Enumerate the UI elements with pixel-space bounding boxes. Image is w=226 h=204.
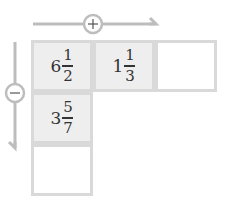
numerator: 5: [63, 100, 73, 115]
plus-arrow: [33, 15, 156, 33]
denominator: 7: [63, 121, 73, 136]
cell-r1-c0: 3 5 7: [31, 92, 93, 144]
fraction: 5 7: [62, 100, 73, 135]
denominator: 3: [125, 69, 135, 84]
cell-r0-c1: 1 1 3: [93, 40, 155, 92]
whole-part: 1: [113, 56, 124, 76]
cell-r0-c2-answer[interactable]: [155, 40, 217, 92]
whole-part: 6: [51, 56, 62, 76]
denominator: 2: [63, 69, 73, 84]
whole-part: 3: [51, 108, 62, 128]
mixed-number: 6 1 2: [51, 48, 74, 83]
fraction: 1 2: [62, 48, 73, 83]
minus-arrow: [6, 42, 24, 148]
mixed-number: 1 1 3: [113, 48, 136, 83]
numerator: 1: [125, 48, 135, 63]
numerator: 1: [63, 48, 73, 63]
cell-r0-c0: 6 1 2: [31, 40, 93, 92]
mixed-number: 3 5 7: [51, 100, 74, 135]
cell-r2-c0-answer[interactable]: [31, 144, 93, 196]
fraction: 1 3: [124, 48, 135, 83]
